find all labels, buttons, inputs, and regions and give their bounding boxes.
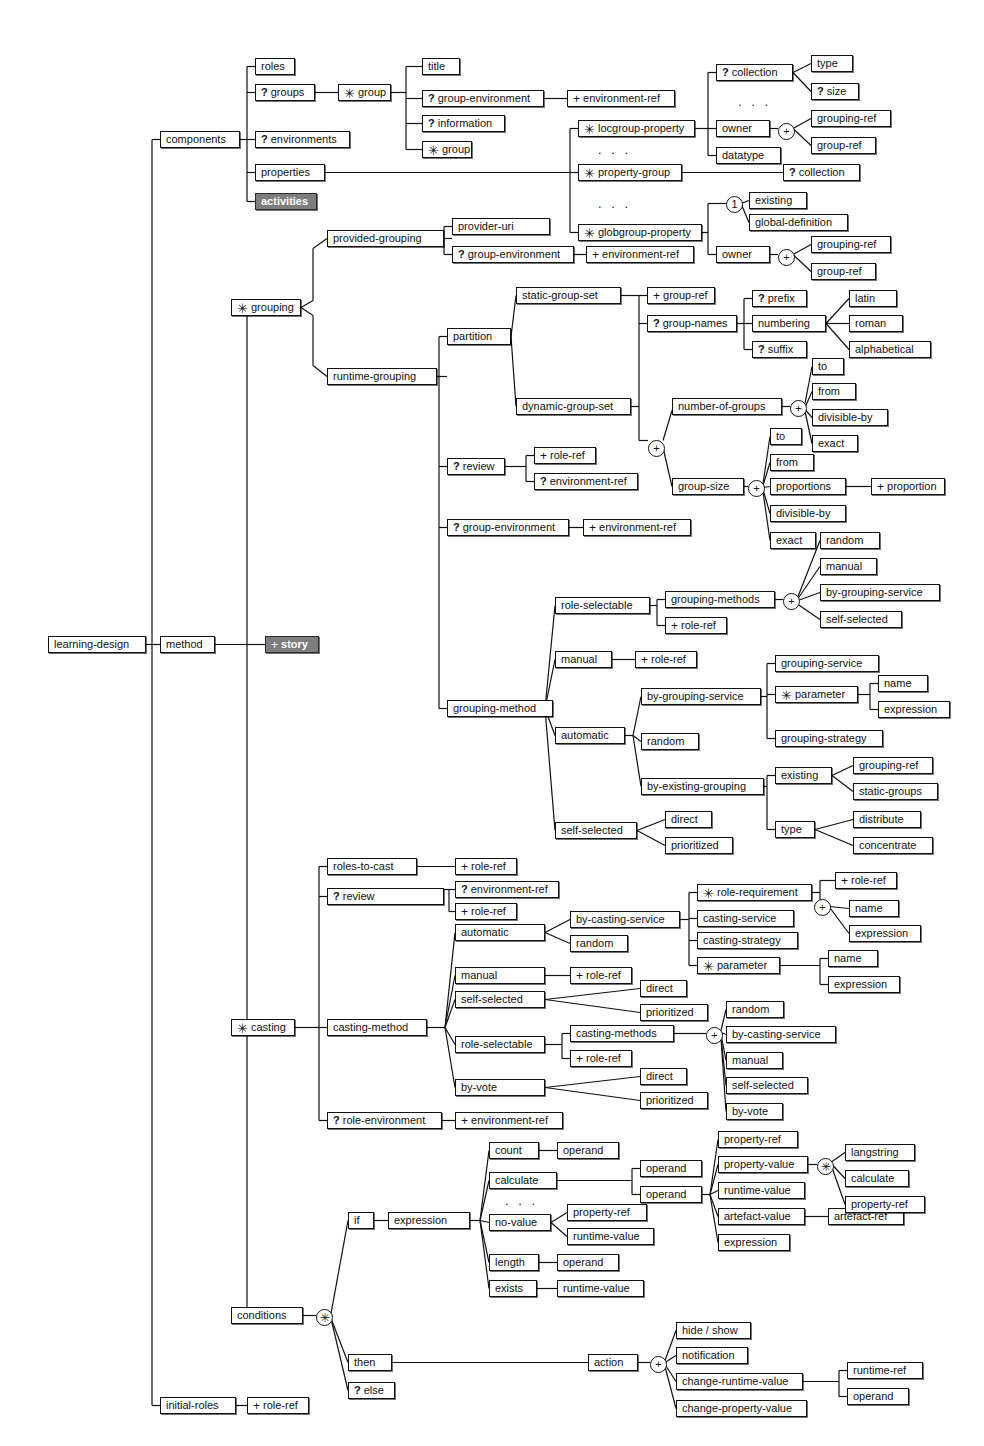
schema-node-label-grouping-method: grouping-method [453,703,536,714]
schema-node-nv-runtime-value: runtime-value [567,1228,654,1245]
junction-j-owner2: + [778,249,795,266]
schema-node-label-nog-exact: exact [818,438,844,449]
schema-node-beg-concentrate: concentrate [853,837,933,854]
schema-node-dynamic-group-set: dynamic-group-set [516,398,631,415]
schema-node-label-owner2: owner [722,249,752,260]
schema-node-label-grouping: grouping [251,302,294,313]
schema-node-role-requirement: ✳role-requirement [697,884,812,901]
schema-node-label-length-operand: operand [563,1257,603,1268]
schema-node-label-globgroup-property: globgroup-property [598,227,691,238]
schema-node-grouping-methods: grouping-methods [665,591,775,608]
cardinality-marker-rs-roleref: + [671,620,678,632]
schema-node-else: ?else [348,1382,395,1399]
schema-node-label-nog-divisible-by: divisible-by [818,412,872,423]
schema-node-beg-type: type [775,821,815,838]
schema-node-label-title: title [428,61,445,72]
schema-node-label-calculate: calculate [495,1175,538,1186]
schema-node-label-group2: group [442,144,470,155]
schema-node-story: +story [265,636,319,653]
schema-node-label-crv-runtime-ref: runtime-ref [853,1365,906,1376]
cardinality-marker-locgroup-property: ✳ [584,123,595,136]
schema-node-size1: ?size [811,83,859,100]
cardinality-marker-re-envref: + [461,1115,468,1127]
schema-node-casting: ✳casting [231,1019,295,1036]
schema-node-review-roleref: +role-ref [534,447,596,464]
schema-node-grouping-ref1: grouping-ref [811,110,891,127]
schema-node-label-manual-g: manual [561,654,597,665]
ellipsis-e-expression: . . . [505,1194,538,1207]
schema-node-gm-random: random [820,532,880,549]
schema-node-label-op-runtime-value: runtime-value [724,1185,791,1196]
schema-node-exists-runtime-value: runtime-value [557,1280,644,1297]
schema-node-label-review-roleref: role-ref [550,450,585,461]
schema-node-label-calc-operand1: operand [646,1163,686,1174]
schema-node-gs-exact: exact [770,532,816,549]
schema-node-bgs-random: random [641,733,699,750]
schema-node-suffix: ?suffix [752,341,807,358]
schema-node-groups: ?groups [255,84,315,101]
cardinality-marker-bgs-parameter: ✳ [781,689,792,702]
schema-node-label-review-envref: environment-ref [550,476,627,487]
schema-node-label-group-environment: group-environment [438,93,530,104]
schema-node-label-rsc-roleref: role-ref [586,1053,621,1064]
schema-diagram-canvas: learning-designmethod+storyinitial-roles… [0,0,984,1446]
schema-node-label-cp-name: name [834,953,862,964]
cardinality-marker-sgs-groupref: + [653,290,660,302]
schema-node-rc-roleref: +role-ref [455,903,517,920]
cardinality-marker-g-ge-envref: + [589,522,596,534]
schema-node-prefix: ?prefix [752,290,807,307]
schema-node-label-groups: groups [271,87,305,98]
schema-node-label-pv-property-ref: property-ref [851,1199,908,1210]
cardinality-marker-pg-group-environment: ? [458,249,465,260]
schema-node-label-runtime-grouping: runtime-grouping [333,371,416,382]
schema-node-sc-direct: direct [640,980,687,997]
schema-node-calculate: calculate [489,1172,557,1189]
schema-node-provider-uri: provider-uri [452,218,550,235]
schema-node-role-environment: ?role-environment [327,1112,442,1129]
schema-node-label-information: information [438,118,492,129]
schema-node-label-count: count [495,1145,522,1156]
schema-node-label-prefix: prefix [768,293,795,304]
schema-node-g-group-environment: ?group-environment [447,519,569,536]
ellipsis-e-locgroup: . . . [598,143,631,156]
schema-node-datatype: datatype [716,147,781,164]
schema-node-pg-group-environment: ?group-environment [452,246,574,263]
cardinality-marker-ge-envref: + [573,93,580,105]
schema-node-label-bgs-random: random [647,736,684,747]
schema-node-label-grouping-ref2: grouping-ref [817,239,876,250]
schema-node-rtc-roleref: +role-ref [455,858,517,875]
schema-node-by-casting-service: by-casting-service [570,911,680,928]
junction-j-action: + [650,1356,667,1373]
schema-node-label-cm-by-casting-service: by-casting-service [732,1029,821,1040]
schema-node-label-nv-property-ref: property-ref [573,1207,630,1218]
schema-node-g-ge-envref: +environment-ref [583,519,691,536]
schema-node-group-ref2: group-ref [811,263,876,280]
schema-node-automatic-c: automatic [455,924,545,941]
junction-j-globchoice: 1 [726,196,743,213]
schema-node-label-ss-prioritized: prioritized [671,840,719,851]
junction-j-groupsets: + [648,440,665,457]
schema-node-label-group-ref2: group-ref [817,266,862,277]
schema-node-ss-prioritized: prioritized [665,837,733,854]
schema-node-label-bgs-name: name [884,678,912,689]
schema-node-label-bgs-expression: expression [884,704,937,715]
cardinality-marker-g-group-environment: ? [453,522,460,533]
schema-node-collection2: ?collection [783,164,860,181]
schema-node-crv-runtime-ref: runtime-ref [847,1362,923,1379]
schema-node-nog-divisible-by: divisible-by [812,409,888,426]
schema-node-cp-expression: expression [828,976,900,993]
schema-node-label-casting-strategy: casting-strategy [703,935,781,946]
schema-node-pv-langstring: langstring [845,1144,915,1161]
schema-node-ss-direct: direct [665,811,712,828]
schema-node-label-group-names: group-names [663,318,728,329]
schema-node-label-gs-from: from [776,457,798,468]
schema-node-label-cm-random: random [732,1004,769,1015]
schema-node-label-components: components [166,134,226,145]
schema-node-roman: roman [849,315,903,332]
schema-node-label-collection2: collection [799,167,845,178]
schema-node-exists: exists [489,1280,537,1297]
schema-node-label-bv-direct: direct [646,1071,673,1082]
schema-node-label-then: then [354,1357,375,1368]
schema-node-label-global-definition: global-definition [755,217,832,228]
schema-node-information: ?information [422,115,505,132]
